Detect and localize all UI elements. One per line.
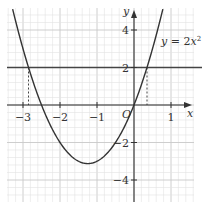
y-axis-arrow-icon [131, 10, 137, 18]
origin-label: O [122, 108, 131, 121]
parabola-curve [13, 9, 163, 164]
x-tick-label: 1 [168, 111, 175, 124]
curve-label: y = 2x2 [160, 35, 201, 48]
y-tick-label: −2 [113, 137, 129, 150]
x-tick-label: −1 [89, 111, 105, 124]
x-tick-label: −2 [52, 111, 68, 124]
x-tick-label: −3 [15, 111, 31, 124]
graph-svg: y x O y = 2x2 −3−2−1142−2−4 [0, 0, 202, 202]
x-axis-label: x [187, 107, 194, 120]
y-tick-label: −4 [113, 174, 129, 187]
y-tick-label: 2 [122, 62, 129, 75]
y-tick-label: 4 [122, 24, 129, 37]
graph-figure: y x O y = 2x2 −3−2−1142−2−4 [0, 0, 202, 202]
y-axis-label: y [122, 5, 130, 18]
